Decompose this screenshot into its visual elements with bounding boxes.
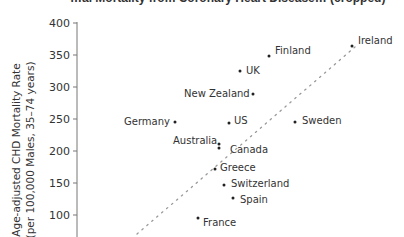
y-tick-label: 250 xyxy=(49,113,70,126)
data-point-spain: Spain xyxy=(232,194,268,205)
point-label: US xyxy=(234,115,248,126)
y-tick-label: 150 xyxy=(49,177,70,190)
data-point-switzerland: Switzerland xyxy=(223,178,290,189)
data-point-canada: Canada xyxy=(218,144,269,155)
data-point-new-zealand: New Zealand xyxy=(184,88,255,99)
point-label: France xyxy=(203,217,236,228)
y-tick-label: 300 xyxy=(49,81,70,94)
point-label: Finland xyxy=(275,45,311,56)
point-label: Ireland xyxy=(358,35,393,46)
point-label: Greece xyxy=(220,162,256,173)
point-label: Switzerland xyxy=(231,178,289,189)
data-point-germany: Germany xyxy=(124,116,177,127)
data-point-france: France xyxy=(197,217,237,229)
y-axis-label: Age-adjusted CHD Mortality Rate(per 100,… xyxy=(10,62,36,237)
y-tick-label: 200 xyxy=(49,145,70,158)
data-point-finland: Finland xyxy=(268,45,311,58)
data-point-us: US xyxy=(228,115,248,126)
scatter-chart: 400350300250200150100 IrelandFinlandUKNe… xyxy=(0,0,404,237)
data-point-greece: Greece xyxy=(214,162,256,173)
point-label: Germany xyxy=(124,116,170,127)
point-label: Spain xyxy=(240,194,268,205)
data-point-uk: UK xyxy=(239,65,261,76)
data-point-ireland: Ireland xyxy=(351,35,393,48)
y-tick-label: 100 xyxy=(49,209,70,222)
data-points: IrelandFinlandUKNew ZealandGermanyUSSwed… xyxy=(124,35,393,228)
point-label: Sweden xyxy=(302,115,342,126)
svg-text:(per 100,000 Males, 35–74 year: (per 100,000 Males, 35–74 years) xyxy=(24,62,36,237)
y-axis: 400350300250200150100 xyxy=(49,17,77,237)
point-label: New Zealand xyxy=(184,88,250,99)
data-point-sweden: Sweden xyxy=(294,115,342,126)
svg-text:Age-adjusted CHD Mortality Rat: Age-adjusted CHD Mortality Rate xyxy=(10,63,22,236)
point-label: Canada xyxy=(230,144,268,155)
y-tick-label: 350 xyxy=(49,49,70,62)
point-label: Australia xyxy=(173,135,217,146)
point-label: UK xyxy=(246,65,260,76)
y-tick-label: 400 xyxy=(49,17,70,30)
data-point-australia: Australia xyxy=(173,135,221,146)
